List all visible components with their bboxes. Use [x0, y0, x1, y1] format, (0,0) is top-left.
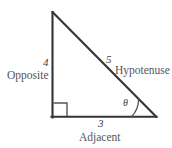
- theta-arc-icon: [132, 99, 139, 117]
- right-angle-marker-icon: [54, 103, 68, 116]
- hypotenuse-side-label: Hypotenuse: [115, 65, 170, 77]
- adjacent-side-label: Adjacent: [79, 132, 121, 144]
- adjacent-length-label: 3: [98, 118, 104, 129]
- theta-angle-label: θ: [123, 98, 128, 108]
- hypotenuse-length-label: 5: [106, 54, 112, 65]
- opposite-side-label: Opposite: [7, 70, 49, 82]
- opposite-length-label: 4: [43, 57, 49, 68]
- right-triangle-figure: Opposite 4 5 Hypotenuse 3 Adjacent θ: [0, 0, 172, 148]
